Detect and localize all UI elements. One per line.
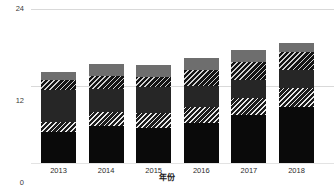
bar-2014 <box>89 64 124 163</box>
bar-segment-2017-4 <box>231 62 266 80</box>
bar-segment-2013-1 <box>41 132 76 163</box>
bar-segment-2014-4 <box>89 76 124 89</box>
bar-segment-2017-1 <box>231 115 266 163</box>
bar-2013 <box>41 72 76 163</box>
bar-2015 <box>136 65 171 163</box>
gridline-0 <box>31 163 334 164</box>
ytick-label-12: 12 <box>2 96 24 105</box>
bar-segment-2014-1 <box>89 126 124 163</box>
bar-segment-2015-2 <box>136 113 171 128</box>
bar-2018 <box>279 43 314 163</box>
bar-segment-2013-3 <box>41 90 76 122</box>
bar-segment-2016-3 <box>184 86 219 107</box>
bar-2017 <box>231 50 266 163</box>
bar-segment-2014-3 <box>89 89 124 112</box>
bar-segment-2014-2 <box>89 112 124 126</box>
stacked-bar-chart: 24 12 0 201320142015201620172018 年份 <box>0 0 334 186</box>
bar-segment-2016-2 <box>184 107 219 123</box>
bar-segment-2016-4 <box>184 70 219 86</box>
bar-segment-2016-1 <box>184 123 219 163</box>
bar-segment-2016-5 <box>184 58 219 70</box>
bar-segment-2015-3 <box>136 87 171 113</box>
bar-segment-2018-1 <box>279 107 314 163</box>
bar-segment-2017-2 <box>231 98 266 115</box>
bar-segment-2018-4 <box>279 52 314 70</box>
bar-2016 <box>184 58 219 163</box>
bar-segment-2013-2 <box>41 122 76 132</box>
gridline-24 <box>31 9 334 10</box>
bar-segment-2015-4 <box>136 77 171 87</box>
xaxis-title: 年份 <box>0 173 334 183</box>
bar-segment-2018-5 <box>279 43 314 52</box>
bar-segment-2013-4 <box>41 80 76 90</box>
ytick-label-24: 24 <box>2 4 24 13</box>
bar-segment-2013-5 <box>41 72 76 80</box>
bar-segment-2018-2 <box>279 88 314 107</box>
bar-segment-2017-3 <box>231 80 266 98</box>
bar-segment-2017-5 <box>231 50 266 62</box>
bar-segment-2015-1 <box>136 128 171 163</box>
bar-segment-2015-5 <box>136 65 171 77</box>
bar-segment-2018-3 <box>279 70 314 88</box>
bar-segment-2014-5 <box>89 64 124 76</box>
